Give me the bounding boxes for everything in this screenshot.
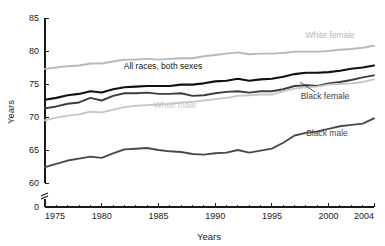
x-tick-label: 1990 xyxy=(205,211,225,221)
x-tick-label: 1985 xyxy=(148,211,168,221)
x-tick-label: 1980 xyxy=(92,211,112,221)
series-labels: White femaleAll races, both sexesBlack f… xyxy=(124,30,355,138)
y-tick-label: 80 xyxy=(29,46,39,56)
axis-break-zigzag xyxy=(41,193,48,199)
series-label-black-female: Black female xyxy=(301,91,350,101)
y-tick-label: 60 xyxy=(29,178,39,188)
x-tick-label: 1975 xyxy=(45,211,65,221)
chart-svg: Years Years 6065707580850197519801985199… xyxy=(0,0,385,246)
series-label-black-male: Black male xyxy=(306,128,348,138)
y-axis-title: Years xyxy=(5,100,16,124)
x-axis-title: Years xyxy=(197,231,221,242)
x-tick-label: 2004 xyxy=(354,211,374,221)
x-tick-label: 2000 xyxy=(319,211,339,221)
series-line-white-female xyxy=(45,46,374,69)
life-expectancy-chart: Years Years 6065707580850197519801985199… xyxy=(0,0,385,246)
series-line-black-male xyxy=(45,118,374,167)
y-axis-break-mark xyxy=(41,193,48,199)
series-label-all-races-both-sexes: All races, both sexes xyxy=(124,61,202,71)
data-series xyxy=(45,46,374,167)
x-tick-label: 1995 xyxy=(262,211,282,221)
axis-tick-labels: 6065707580850197519801985199019952000200… xyxy=(29,13,374,221)
y-tick-label: 70 xyxy=(29,112,39,122)
y-tick-label-zero: 0 xyxy=(34,202,39,212)
series-label-white-female: White female xyxy=(305,30,355,40)
y-tick-label: 85 xyxy=(29,13,39,23)
y-tick-label: 75 xyxy=(29,79,39,89)
y-tick-label: 65 xyxy=(29,145,39,155)
series-label-white-male: White male xyxy=(154,100,197,110)
